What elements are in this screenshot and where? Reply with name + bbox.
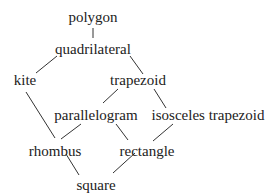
- edge-quadrilateral-kite: [36, 56, 57, 73]
- edge-trapezoid-parallelogram: [103, 89, 118, 103]
- node-isosceles-trapezoid: isosceles trapezoid: [152, 107, 265, 123]
- edge-isosceles-trapezoid-rectangle: [153, 124, 173, 141]
- edge-parallelogram-rhombus: [61, 124, 81, 139]
- node-trapezoid: trapezoid: [110, 72, 166, 88]
- node-polygon: polygon: [68, 9, 118, 25]
- node-kite: kite: [14, 72, 37, 88]
- node-parallelogram: parallelogram: [54, 107, 138, 123]
- node-quadrilateral: quadrilateral: [55, 41, 131, 57]
- edge-trapezoid-isosceles-trapezoid: [154, 89, 166, 108]
- edge-parallelogram-rectangle: [116, 124, 128, 140]
- quadrilateral-hierarchy-diagram: polygon quadrilateral kite trapezoid par…: [0, 0, 272, 195]
- edge-kite-rhombus: [26, 92, 55, 138]
- node-square: square: [76, 177, 115, 193]
- node-rectangle: rectangle: [120, 143, 175, 159]
- node-rhombus: rhombus: [29, 143, 82, 159]
